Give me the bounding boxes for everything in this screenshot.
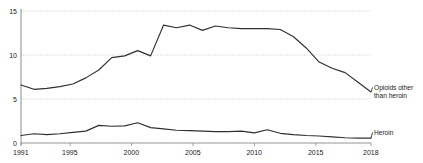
chart-container: 15 10 5 0 1991 1995 2000 2005 2010 2015 … xyxy=(0,0,423,163)
y-tick-label-15: 15 xyxy=(9,8,17,15)
leader-line-opioids xyxy=(371,88,373,92)
line-opioids-other-than-heroin xyxy=(21,25,371,92)
series-lines xyxy=(21,25,371,138)
x-tick-label-2010: 2010 xyxy=(246,149,262,156)
x-tick-label-2005: 2005 xyxy=(185,149,201,156)
x-tick-label-2015: 2015 xyxy=(308,149,324,156)
x-tick-label-1995: 1995 xyxy=(62,149,78,156)
x-tick-label-1991: 1991 xyxy=(13,149,29,156)
series-leaders xyxy=(371,88,373,139)
line-heroin xyxy=(21,123,371,138)
y-axis-tick-labels: 15 10 5 0 xyxy=(9,8,17,147)
series-label-opioids-line2: than heroin xyxy=(374,92,407,99)
y-tick-label-10: 10 xyxy=(9,52,17,59)
gridlines xyxy=(21,11,371,143)
opioid-line-chart: 15 10 5 0 1991 1995 2000 2005 2010 2015 … xyxy=(0,0,423,163)
series-labels: Opioids other than heroin Heroin xyxy=(374,84,414,136)
series-label-opioids-line1: Opioids other xyxy=(374,84,414,92)
series-label-heroin: Heroin xyxy=(374,129,394,136)
x-axis-tick-labels: 1991 1995 2000 2005 2010 2015 2018 xyxy=(13,149,379,156)
leader-line-heroin xyxy=(371,133,373,139)
x-tick-label-2000: 2000 xyxy=(124,149,140,156)
axes xyxy=(21,9,371,146)
x-tick-label-2018: 2018 xyxy=(363,149,379,156)
y-tick-label-5: 5 xyxy=(13,96,17,103)
y-tick-label-0: 0 xyxy=(13,140,17,147)
